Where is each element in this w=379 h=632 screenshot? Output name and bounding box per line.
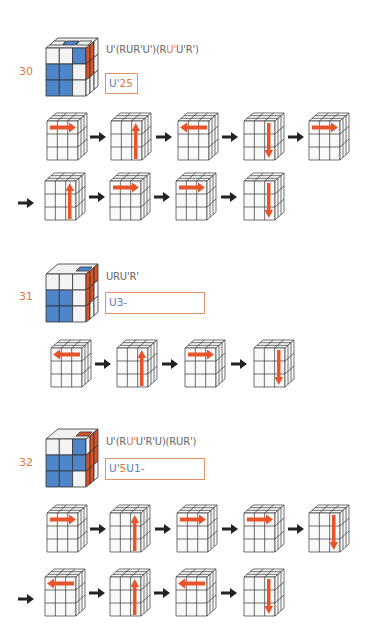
cube-3x3-icon bbox=[241, 111, 287, 167]
arrow-left-move-icon bbox=[173, 567, 219, 619]
arrow-right-icon bbox=[162, 354, 178, 373]
arrow-right-move-icon bbox=[107, 171, 153, 223]
cube-3x3-icon bbox=[42, 171, 88, 227]
cube-3x3-icon bbox=[241, 171, 287, 227]
arrow-up-move-icon bbox=[114, 338, 160, 390]
cube-3x3-icon bbox=[306, 503, 352, 559]
cube-3x3-icon bbox=[174, 503, 220, 559]
arrow-right-icon bbox=[95, 354, 111, 373]
arrow-right-move-icon bbox=[306, 111, 352, 163]
arrow-up-move-icon bbox=[107, 503, 153, 555]
cube-3x3-icon bbox=[175, 111, 221, 167]
cube-3x3-icon bbox=[44, 111, 90, 167]
arrow-right-icon bbox=[288, 127, 304, 146]
arrow-down-move-icon bbox=[241, 111, 287, 163]
arrow-right-icon bbox=[221, 583, 237, 602]
arrow-right-icon bbox=[288, 519, 304, 538]
case-number: 30 bbox=[19, 65, 33, 78]
cube-3x3-icon bbox=[44, 503, 90, 559]
arrow-right-move-icon bbox=[44, 111, 90, 163]
cube-3x3-icon bbox=[107, 567, 153, 623]
arrow-right-icon bbox=[154, 583, 170, 602]
arrow-right-move-icon bbox=[173, 171, 219, 223]
cube-3x3-icon bbox=[107, 171, 153, 227]
arrow-right-icon bbox=[156, 127, 172, 146]
arrow-right-move-icon bbox=[174, 503, 220, 555]
cube-3x3-icon bbox=[107, 503, 153, 559]
arrow-right-icon bbox=[222, 127, 238, 146]
cube-3x3-icon bbox=[306, 111, 352, 167]
cube-3x3-icon bbox=[241, 503, 287, 559]
cube-3x3-icon bbox=[251, 338, 297, 394]
arrow-right-icon bbox=[155, 519, 171, 538]
cube-state-icon bbox=[38, 36, 102, 100]
arrow-down-move-icon bbox=[241, 567, 287, 619]
arrow-right-icon bbox=[154, 187, 170, 206]
arrow-right-move-icon bbox=[182, 338, 228, 390]
arrow-right-icon bbox=[90, 519, 106, 538]
arrow-left-move-icon bbox=[42, 567, 88, 619]
cube-3x3-icon bbox=[182, 338, 228, 394]
cube-3x3-icon bbox=[241, 567, 287, 623]
case-number: 32 bbox=[19, 456, 33, 469]
cube-3x3-icon bbox=[114, 338, 160, 394]
arrow-left-move-icon bbox=[175, 111, 221, 163]
arrow-right-icon bbox=[89, 583, 105, 602]
arrow-up-move-icon bbox=[108, 111, 154, 163]
code-box: U'5U1- bbox=[105, 458, 205, 480]
arrow-right-icon bbox=[18, 193, 34, 212]
arrow-right-move-icon bbox=[241, 503, 287, 555]
arrow-right-icon bbox=[221, 187, 237, 206]
cube-3x3-icon bbox=[42, 567, 88, 623]
case-number: 31 bbox=[19, 290, 33, 303]
cube-3x3-icon bbox=[173, 567, 219, 623]
code-box: U3- bbox=[105, 292, 205, 314]
arrow-down-move-icon bbox=[251, 338, 297, 390]
arrow-left-move-icon bbox=[48, 338, 94, 390]
arrow-down-move-icon bbox=[241, 171, 287, 223]
arrow-down-move-icon bbox=[306, 503, 352, 555]
arrow-right-icon bbox=[90, 127, 106, 146]
algorithm-text: U'(RU'U'R'U)(RUR') bbox=[106, 436, 196, 447]
algorithm-text: URU'R' bbox=[106, 271, 139, 282]
cube-state-icon bbox=[38, 262, 102, 326]
algorithm-text: U'(RUR'U')(RU'U'R') bbox=[106, 44, 199, 55]
arrow-up-move-icon bbox=[42, 171, 88, 223]
arrow-right-icon bbox=[231, 354, 247, 373]
code-box: U'25 bbox=[105, 73, 138, 94]
cube-3x3-icon bbox=[48, 338, 94, 394]
arrow-right-move-icon bbox=[44, 503, 90, 555]
cube-3x3-icon bbox=[108, 111, 154, 167]
arrow-right-icon bbox=[222, 519, 238, 538]
cube-3x3-icon bbox=[173, 171, 219, 227]
cube-state-icon bbox=[38, 427, 102, 491]
arrow-right-icon bbox=[89, 187, 105, 206]
arrow-right-icon bbox=[18, 589, 34, 608]
arrow-up-move-icon bbox=[107, 567, 153, 619]
